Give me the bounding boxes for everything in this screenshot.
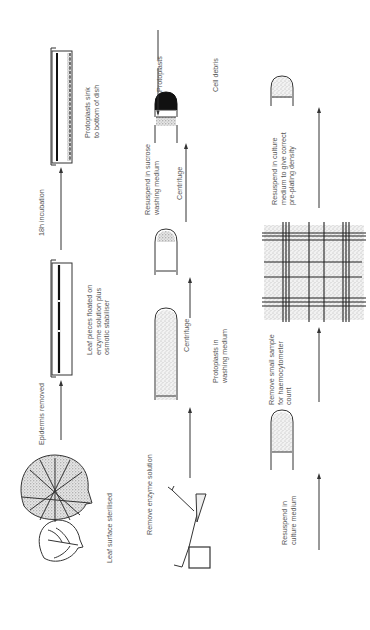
arrow-epidermis-removed (59, 380, 63, 440)
arrow-to-tube-1 (188, 407, 192, 478)
label-epidermis-removed: Epidermis removed (37, 383, 46, 445)
haemocytometer-grid-icon (262, 222, 366, 322)
leaf-large-veined-icon (21, 455, 92, 522)
label-resuspend-culture: Resuspend in culture medium (280, 496, 298, 545)
label-resuspend-plating-density: Resuspend in culture medium to give corr… (270, 130, 296, 205)
petri-dish-protoplasts-sunk-icon (51, 48, 72, 165)
label-centrifuge-2: Centrifuge (175, 167, 184, 200)
label-leaf-surface-sterilised: Leaf surface sterilised (105, 493, 114, 563)
petri-dish-floating-leaf-icon (51, 260, 72, 377)
arrow-resuspend-sucrose (184, 143, 188, 222)
final-culture-tube-icon (271, 76, 293, 106)
centrifuge-tube-protoplasts-washing-icon (155, 308, 177, 400)
leaf-small-icon (39, 520, 83, 561)
label-cell-debris: Cell debris (211, 58, 220, 92)
label-leaf-pieces-floated: Leaf pieces floated on enzyme solution p… (85, 283, 111, 355)
arrow-haemocytometer-sample (317, 327, 321, 402)
row-1: Leaf surface sterilised Epidermis remove… (21, 48, 114, 563)
arrow-18h-incubation (59, 167, 63, 250)
label-18h-incubation: 18h incubation (37, 189, 46, 236)
row-2: Remove enzyme solution Protoplasts in wa… (143, 30, 229, 568)
label-protoplasts-washing-medium: Protoplasts in washing medium (211, 329, 229, 384)
row-3: Resuspend in culture medium Remove small… (262, 76, 366, 550)
protoplast-isolation-diagram: Leaf surface sterilised Epidermis remove… (0, 0, 370, 630)
arrow-centrifuge-1 (188, 277, 192, 318)
label-remove-enzyme-solution: Remove enzyme solution (145, 454, 154, 535)
centrifuge-tube-pellet-icon (155, 229, 177, 275)
label-protoplasts: Protoplasts (155, 56, 164, 92)
culture-tube-icon (271, 410, 293, 470)
label-resuspend-sucrose: Resuspend in sucrose washing medium (143, 142, 161, 216)
label-protoplasts-sink: Protoplasts sink to bottom of dish (83, 85, 101, 138)
arrow-resuspend-plating-density (317, 107, 321, 208)
filter-funnel-beaker-icon (168, 486, 210, 568)
label-haemocytometer-sample: Remove small sample for haemocytometer c… (267, 332, 293, 405)
arrow-resuspend-culture (317, 473, 321, 550)
label-centrifuge-1: Centrifuge (182, 319, 191, 352)
